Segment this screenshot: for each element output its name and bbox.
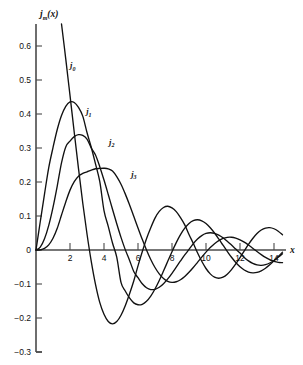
curve-label-j3: j3 xyxy=(129,169,136,181)
y-tick-label-0.6: 0.6 xyxy=(19,41,31,51)
y-tick-label--0.2: −0.2 xyxy=(14,313,31,323)
y-axis-tick-labels: 0.60.50.40.30.20.10−0.1−0.2−0.3 xyxy=(14,41,31,357)
curve-j0 xyxy=(62,24,283,324)
curve-label-subscript: 3 xyxy=(133,174,137,180)
x-tick-label-10: 10 xyxy=(201,253,211,263)
y-tick-label-0.5: 0.5 xyxy=(19,75,31,85)
curve-label-j2: j2 xyxy=(107,137,114,149)
x-tick-label-2: 2 xyxy=(68,253,73,263)
y-tick-label-0: 0 xyxy=(26,245,31,255)
y-tick-label-0.2: 0.2 xyxy=(19,177,31,187)
y-axis-title-arg: (x) xyxy=(47,9,58,20)
x-axis-ticks xyxy=(70,243,274,250)
y-axis-ticks xyxy=(36,46,42,352)
curve-j3 xyxy=(36,168,283,282)
curve-label-subscript: 1 xyxy=(89,112,92,118)
y-tick-label-0.1: 0.1 xyxy=(19,211,31,221)
curve-label-subscript: 0 xyxy=(72,66,75,72)
bessel-function-plot: 0.60.50.40.30.20.10−0.1−0.2−0.3 24681012… xyxy=(0,0,303,365)
x-axis-title: x xyxy=(289,245,295,255)
curve-label-j1: j1 xyxy=(84,106,91,118)
axes-group xyxy=(36,24,286,352)
x-axis-tick-labels: 2468101214 xyxy=(68,253,279,263)
curve-label-j0: j0 xyxy=(68,60,75,72)
y-tick-label--0.1: −0.1 xyxy=(14,279,31,289)
y-axis-title: jm(x) xyxy=(38,9,58,21)
x-tick-label-4: 4 xyxy=(102,253,107,263)
y-tick-label--0.3: −0.3 xyxy=(14,347,31,357)
bessel-function-figure: 0.60.50.40.30.20.10−0.1−0.2−0.3 24681012… xyxy=(0,0,303,365)
y-tick-label-0.3: 0.3 xyxy=(19,143,31,153)
curve-label-subscript: 2 xyxy=(110,142,114,148)
y-tick-label-0.4: 0.4 xyxy=(19,109,31,119)
